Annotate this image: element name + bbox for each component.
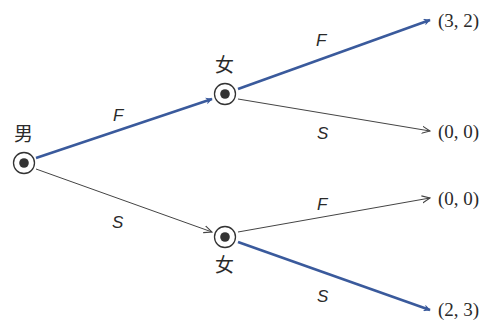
node-upper bbox=[215, 84, 236, 105]
edge-lower-S bbox=[238, 242, 430, 310]
move-label-root-S: S bbox=[112, 213, 124, 232]
player-label-upper: 女 bbox=[215, 54, 234, 76]
node-root bbox=[14, 153, 35, 174]
move-label-root-F: F bbox=[113, 106, 125, 125]
move-label-lower-F: F bbox=[317, 195, 329, 214]
payoff-SS: (2, 3) bbox=[438, 299, 479, 321]
node-lower bbox=[215, 227, 236, 248]
player-label-root: 男 bbox=[14, 123, 33, 145]
payoff-FF: (3, 2) bbox=[438, 10, 479, 32]
edge-upper-S bbox=[238, 99, 430, 131]
edge-upper-F bbox=[238, 20, 430, 89]
move-label-lower-S: S bbox=[317, 287, 329, 306]
move-label-upper-F: F bbox=[316, 31, 328, 50]
edge-lower-F bbox=[238, 198, 430, 232]
player-label-lower: 女 bbox=[215, 254, 234, 276]
edge-root-F bbox=[36, 99, 212, 158]
edge-root-S bbox=[36, 169, 212, 232]
move-label-upper-S: S bbox=[317, 124, 329, 143]
payoff-FS: (0, 0) bbox=[438, 121, 479, 143]
payoff-SF: (0, 0) bbox=[438, 188, 479, 210]
game-tree: 男 女 女 F S F S F S (3, 2) (0, 0) (0, 0) (… bbox=[0, 0, 503, 328]
